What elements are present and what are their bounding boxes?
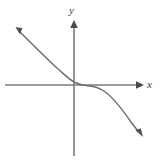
y-axis-label: y	[69, 5, 74, 16]
coordinate-plane-svg	[0, 0, 161, 164]
y-axis-arrowhead-icon	[70, 20, 78, 28]
decreasing-curve-path	[19, 31, 138, 131]
x-axis-arrowhead-icon	[136, 81, 144, 89]
graph-figure: y x	[0, 0, 161, 164]
x-axis-label: x	[147, 79, 152, 90]
